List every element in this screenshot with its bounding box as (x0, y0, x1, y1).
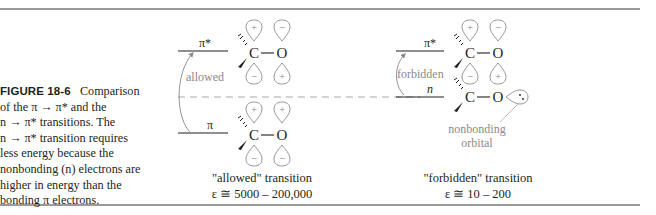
svg-text:+: + (251, 21, 257, 33)
forbidden-epsilon: ε ≅ 10 – 200 (445, 187, 511, 201)
nonbonding-label: nonbonding (448, 122, 505, 136)
svg-text:C: C (249, 127, 259, 143)
right-panel: π* n forbidden + − − + C O C O (396, 20, 533, 201)
allowed-label: allowed (186, 70, 224, 84)
nonbonding-lobe (506, 90, 528, 104)
svg-text:O: O (277, 45, 288, 61)
svg-text:−: − (495, 21, 501, 33)
allowed-arrow (179, 54, 192, 133)
svg-text:C: C (249, 45, 259, 61)
n-orbital: C O (454, 78, 528, 122)
pi-orbital: + − + − C O (238, 102, 290, 166)
svg-text:O: O (277, 127, 288, 143)
svg-text:C: C (465, 89, 475, 105)
svg-text:O: O (493, 89, 504, 105)
svg-text:−: − (279, 21, 285, 33)
left-panel: π* π allowed + − − + C O + − (178, 20, 313, 201)
allowed-epsilon: ε ≅ 5000 – 200,000 (212, 187, 313, 201)
svg-text:+: + (495, 70, 501, 82)
svg-text:+: + (251, 103, 257, 115)
svg-text:C: C (465, 45, 475, 61)
orbital-label: orbital (461, 136, 493, 150)
pi-star-label-right: π* (424, 36, 436, 50)
svg-text:+: + (279, 103, 285, 115)
forbidden-transition-title: "forbidden" transition (423, 171, 533, 185)
pi-star-orbital-right: + − − + C O (454, 20, 506, 84)
svg-text:+: + (467, 21, 473, 33)
n-label: n (427, 82, 433, 96)
pi-star-orbital: + − − + C O (238, 20, 290, 84)
svg-text:−: − (467, 70, 473, 82)
svg-text:−: − (251, 70, 257, 82)
pi-star-label: π* (199, 36, 211, 50)
svg-text:O: O (493, 45, 504, 61)
svg-text:−: − (279, 152, 285, 164)
svg-text:−: − (251, 152, 257, 164)
svg-text:+: + (279, 70, 285, 82)
nonbonding-pointer (500, 104, 518, 122)
forbidden-label: forbidden (397, 67, 444, 81)
allowed-transition-title: "allowed" transition (212, 171, 313, 185)
transition-diagram: π* π allowed + − − + C O + − (0, 0, 656, 215)
pi-label: π (207, 118, 213, 132)
